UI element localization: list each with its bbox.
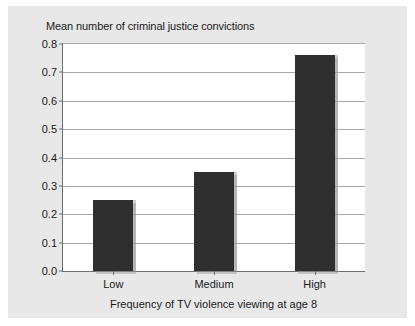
x-axis-tick xyxy=(214,271,215,275)
bar-high[interactable] xyxy=(295,55,335,271)
y-axis-tick-label: 0.1 xyxy=(42,237,57,249)
x-axis-title: Frequency of TV violence viewing at age … xyxy=(62,298,365,310)
bar-medium[interactable] xyxy=(194,172,234,271)
y-axis-tick-label: 0.3 xyxy=(42,180,57,192)
chart-title: Mean number of criminal justice convicti… xyxy=(46,20,254,32)
y-axis-tick-label: 0.7 xyxy=(42,66,57,78)
y-axis-tick-label: 0.6 xyxy=(42,95,57,107)
chart-figure: Mean number of criminal justice convicti… xyxy=(8,6,407,318)
x-axis-tick xyxy=(113,271,114,275)
x-axis-tick-label: Low xyxy=(103,278,123,290)
y-axis-tick-label: 0.4 xyxy=(42,152,57,164)
bar-slot xyxy=(164,44,265,271)
x-axis-tick-label: High xyxy=(303,278,326,290)
y-axis-tick-label: 0.5 xyxy=(42,123,57,135)
plot-area: 0.00.10.20.30.40.50.60.70.8 LowMediumHig… xyxy=(62,43,365,272)
y-axis-tick-label: 0.8 xyxy=(42,38,57,50)
x-axis-tick xyxy=(315,271,316,275)
y-axis-tick-label: 0.0 xyxy=(42,265,57,277)
x-axis-tick-label: Medium xyxy=(194,278,233,290)
bar-slot xyxy=(63,44,164,271)
bar-low[interactable] xyxy=(93,200,133,271)
bar-slot xyxy=(264,44,365,271)
y-axis-tick-label: 0.2 xyxy=(42,208,57,220)
